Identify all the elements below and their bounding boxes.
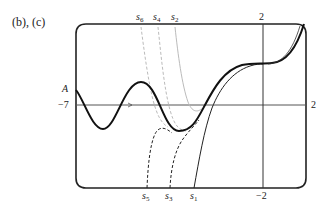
label-s2: s2 xyxy=(171,12,178,24)
phase-plot xyxy=(0,0,329,207)
label-s6: s6 xyxy=(136,12,143,24)
label-s5: s5 xyxy=(142,191,149,203)
y-axis-label: A xyxy=(62,84,68,94)
x-axis-left-tick: −7 xyxy=(58,100,69,110)
v-axis-bottom-tick: −2 xyxy=(256,191,267,201)
label-s3: s3 xyxy=(165,191,172,203)
curve-s2 xyxy=(175,27,203,111)
v-axis-top-tick: 2 xyxy=(259,12,264,22)
label-s4: s4 xyxy=(153,12,160,24)
label-s1: s1 xyxy=(190,191,197,203)
curve-s1 xyxy=(194,64,263,188)
plot-frame xyxy=(76,24,306,188)
curve-main xyxy=(76,24,304,131)
curve-s5 xyxy=(147,128,172,188)
x-axis-right-tick: 2 xyxy=(311,100,316,110)
